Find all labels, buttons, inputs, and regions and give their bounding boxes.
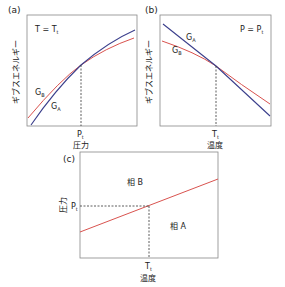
ylabel-gibbs-a: ギブスエネルギー [11, 40, 21, 104]
xlabel-pressure: 圧力 [73, 140, 89, 150]
ylabel-pressure-c: 圧力 [58, 197, 68, 213]
label-ga-b: GA [186, 33, 196, 43]
region-phase-b: 相 B [127, 177, 143, 187]
label-gb-a: GB [35, 88, 45, 98]
curve-ga-a [31, 30, 135, 125]
curve-ga-b [163, 24, 270, 116]
xlabel-temperature-b: 温度 [207, 140, 223, 150]
panel-b-condition: P = Pt [240, 25, 263, 35]
panel-c: (c) 相 B 相 A Pt 圧力 Tt 温度 [58, 152, 218, 283]
panel-a-label: (a) [8, 5, 21, 15]
region-phase-a: 相 A [170, 221, 187, 231]
ylabel-gibbs-b: ギブスエネルギー [144, 40, 154, 104]
phase-diagram-figure: (a) T = Tt GB GA Pt 圧力 ギブスエネルギー (b) P = … [0, 0, 285, 287]
panel-c-label: (c) [63, 154, 75, 164]
xlabel-temperature-c: 温度 [140, 273, 156, 283]
ytick-pt-c: Pt [71, 202, 78, 212]
xtick-tt-c: Tt [144, 262, 152, 272]
panel-a: (a) T = Tt GB GA Pt 圧力 ギブスエネルギー [8, 5, 137, 150]
panel-b: (b) P = Pt GA GB Tt 温度 ギブスエネルギー [144, 5, 271, 150]
xtick-tt: Tt [211, 130, 219, 140]
xtick-pt: Pt [77, 130, 84, 140]
panel-a-condition: T = Tt [34, 25, 59, 35]
curve-gb-a [28, 38, 134, 118]
label-ga-a: GA [51, 102, 61, 112]
panel-b-label: (b) [145, 5, 158, 15]
